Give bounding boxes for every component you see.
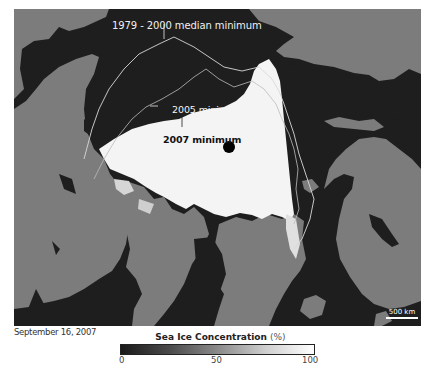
colorbar-legend: Sea Ice Concentration (%) 0 50 100 [120,331,315,343]
sea-ice-map: 1979 - 2000 median minimum 2005 minimum … [14,9,421,326]
colorbar-gradient [120,344,315,355]
map-graphic [14,9,421,326]
scale-bar-label: 500 km [386,308,418,316]
legend-tick-0: 0 [119,355,124,365]
legend-unit: (%) [270,332,286,342]
legend-tick-50: 50 [211,355,222,365]
legend-tick-100: 100 [302,355,318,365]
scale-bar: 500 km [386,308,418,319]
legend-title-text: Sea Ice Concentration [155,332,267,342]
min2007-label: 2007 minimum [163,134,241,145]
min2005-label: 2005 minimum [172,104,243,115]
legend-title: Sea Ice Concentration (%) [126,331,315,343]
scale-bar-line [386,317,418,319]
median-minimum-label: 1979 - 2000 median minimum [112,20,262,31]
date-label: September 16, 2007 [14,327,96,337]
